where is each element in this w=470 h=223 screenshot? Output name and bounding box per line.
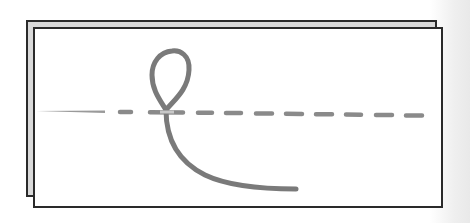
stitch-diagram (0, 0, 470, 223)
front-fabric-sheet (34, 28, 442, 207)
stitch-crossing (160, 111, 174, 114)
